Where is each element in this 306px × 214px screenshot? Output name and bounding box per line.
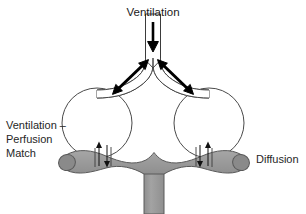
ventilation-perfusion-match-label-line2: Perfusion [6,133,52,145]
ventilation-perfusion-match-label-line1: Ventilation – [6,119,67,131]
diffusion-label: Diffusion [256,153,299,165]
ventilation-title-label: Ventilation [126,6,179,18]
vessel-stem [144,168,164,214]
ventilation-perfusion-match-label-line3: Match [6,147,36,159]
capillary-system [56,151,252,214]
capillary-bed [66,151,242,174]
diagram-canvas: Ventilation Ventilation – Perfusion Matc… [0,0,306,214]
ventilation-perfusion-diagram: Ventilation Ventilation – Perfusion Matc… [0,0,306,214]
